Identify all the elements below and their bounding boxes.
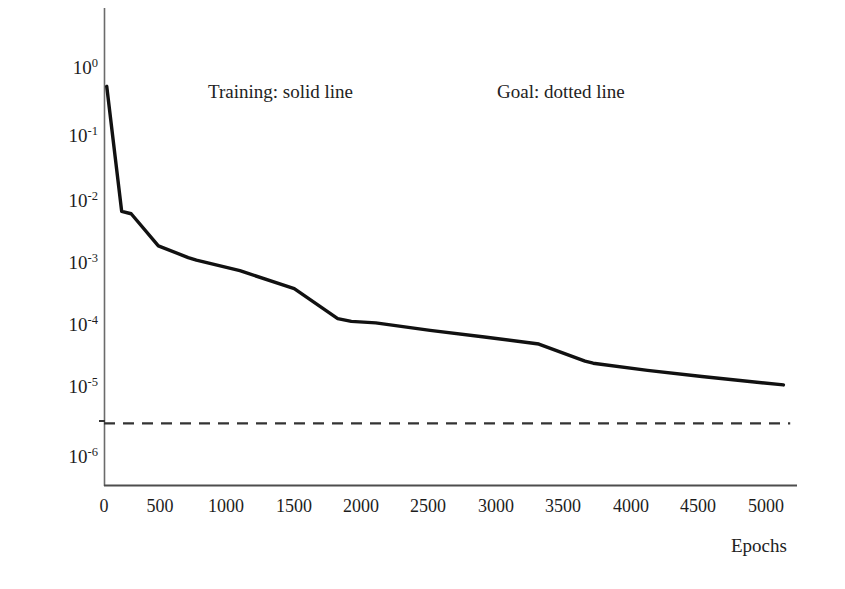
y-tick-label-2: 10-2 [36, 191, 98, 210]
x-tick-label-8: 4000 [601, 497, 661, 515]
x-tick-label-0: 0 [84, 497, 124, 515]
y-tick-label-0: 100 [36, 58, 98, 77]
x-tick-label-2: 1000 [196, 497, 256, 515]
x-tick-label-7: 3500 [533, 497, 593, 515]
x-tick-label-10: 5000 [736, 497, 796, 515]
legend-training-label: Training: solid line [208, 82, 353, 101]
chart-figure: 100 10-1 10-2 10-3 10-4 10-5 10-6 0 500 … [0, 0, 845, 589]
y-tick-label-3: 10-3 [36, 253, 98, 272]
legend-goal-label: Goal: dotted line [497, 82, 625, 101]
x-tick-label-5: 2500 [398, 497, 458, 515]
y-tick-label-5: 10-5 [36, 377, 98, 396]
y-tick-label-6: 10-6 [36, 447, 98, 466]
x-tick-label-6: 3000 [466, 497, 526, 515]
x-axis-title: Epochs [731, 536, 787, 555]
x-tick-label-4: 2000 [331, 497, 391, 515]
x-tick-label-3: 1500 [264, 497, 324, 515]
x-tick-label-9: 4500 [668, 497, 728, 515]
series-line-training [107, 86, 784, 385]
y-tick-label-1: 10-1 [36, 126, 98, 145]
y-tick-label-4: 10-4 [36, 315, 98, 334]
x-tick-label-1: 500 [132, 497, 188, 515]
